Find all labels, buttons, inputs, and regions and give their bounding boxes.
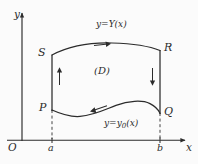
x-axis-label: x	[186, 142, 192, 153]
point-label-S: S	[38, 47, 46, 58]
curve-upper-rhs: Y(x)	[109, 19, 127, 29]
y-axis-label: y	[14, 9, 20, 20]
curve-label-lower: y=y0(x)	[104, 119, 138, 130]
origin-label: O	[8, 142, 17, 153]
tick-label-b: b	[157, 143, 163, 153]
curve-lower-arg: (x)	[126, 118, 138, 128]
tick-label-a: a	[48, 143, 54, 153]
point-label-R: R	[164, 42, 172, 53]
figure-region-d: y x O a b S R P Q (D) y=Y(x) y=y0(x)	[0, 0, 198, 164]
curve-label-upper: y=Y(x)	[96, 20, 127, 29]
arrow-right-downward	[150, 68, 155, 86]
arrow-left-upward	[57, 67, 62, 85]
point-label-Q: Q	[164, 106, 173, 117]
curve-lower-equals: =	[109, 118, 117, 128]
point-label-P: P	[39, 102, 46, 113]
curve-upper-equals: =	[101, 19, 109, 29]
curve-lower-boundary	[52, 101, 160, 116]
region-label: (D)	[94, 66, 110, 76]
